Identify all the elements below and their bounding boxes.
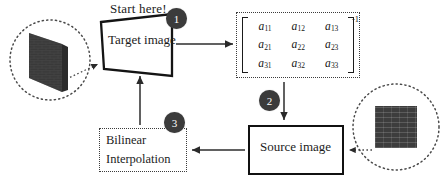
matrix-cell-sub: 11 [264, 25, 271, 33]
matrix-cell-a11: a11 [248, 17, 281, 36]
bilinear-interpolation-node[interactable]: Bilinear Interpolation [99, 128, 187, 172]
matrix-cell-sub: 12 [298, 25, 305, 33]
matrix-cell-a22: a22 [281, 36, 314, 55]
matrix-cell-sub: 21 [264, 44, 271, 52]
matrix-grid: a11 a12 a13 a21 a22 a23 a31 a32 a33 [248, 17, 348, 73]
matrix-cell-a33: a33 [315, 54, 348, 73]
step-badge-3[interactable]: 3 [164, 112, 185, 133]
matrix-inverse-exponent: -1 [352, 14, 359, 24]
matrix-cell-a32: a32 [281, 54, 314, 73]
source-brick-thumbnail [375, 106, 417, 148]
diagram-vector-layer [0, 0, 440, 186]
bilinear-label-line1: Bilinear [106, 131, 186, 150]
matrix-cell-base: a [325, 58, 331, 70]
matrix-cell-base: a [292, 21, 298, 33]
warped-target-thumbnail [29, 33, 68, 92]
step-badge-1[interactable]: 1 [166, 8, 187, 29]
matrix-cell-a13: a13 [315, 17, 348, 36]
matrix-cell-sub: 32 [298, 62, 305, 70]
matrix-cell-sub: 22 [298, 44, 305, 52]
matrix-cell-base: a [258, 58, 264, 70]
matrix-notation: a11 a12 a13 a21 a22 a23 a31 a32 a33 [242, 15, 354, 75]
matrix-cell-base: a [292, 58, 298, 70]
matrix-cell-a23: a23 [315, 36, 348, 55]
matrix-cell-base: a [258, 21, 264, 33]
matrix-cell-a21: a21 [248, 36, 281, 55]
start-here-note: Start here! [110, 1, 167, 17]
matrix-cell-base: a [325, 21, 331, 33]
matrix-cell-sub: 13 [331, 25, 338, 33]
matrix-right-bracket [348, 17, 354, 73]
bilinear-label-line2: Interpolation [106, 150, 186, 169]
matrix-cell-sub: 23 [331, 44, 338, 52]
matrix-cell-base: a [292, 39, 298, 51]
source-image-label: Source image [260, 139, 331, 155]
matrix-cell-sub: 33 [331, 62, 338, 70]
target-image-label: Target image [108, 32, 176, 48]
matrix-cell-a12: a12 [281, 17, 314, 36]
diagram-canvas: Start here! Target image a11 a12 a13 a21… [0, 0, 440, 186]
matrix-left-bracket [242, 17, 248, 73]
matrix-cell-sub: 31 [264, 62, 271, 70]
step-badge-2[interactable]: 2 [259, 90, 280, 111]
matrix-cell-base: a [258, 39, 264, 51]
matrix-cell-a31: a31 [248, 54, 281, 73]
matrix-cell-base: a [325, 39, 331, 51]
